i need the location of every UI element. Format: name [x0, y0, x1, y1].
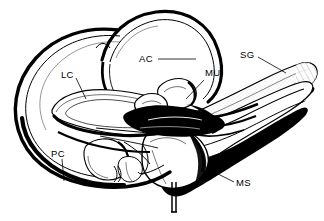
label-ac: AC: [139, 53, 153, 64]
label-mu: MU: [205, 67, 220, 78]
label-sg: SG: [240, 49, 254, 60]
label-ms: MS: [236, 177, 251, 188]
anatomical-figure: AC LC PC MU SG MS: [0, 0, 324, 221]
labyrinth-drawing: AC LC PC MU SG MS: [0, 0, 324, 221]
label-pc: PC: [51, 148, 65, 159]
ampulla-lateral: [118, 156, 142, 182]
label-lc: LC: [61, 69, 74, 80]
